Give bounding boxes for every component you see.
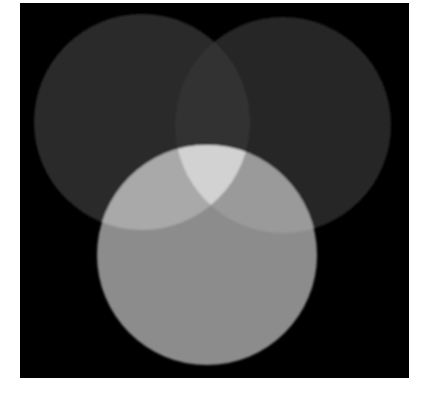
circles-diagram [0, 0, 424, 409]
figure-three-circles [0, 0, 424, 409]
